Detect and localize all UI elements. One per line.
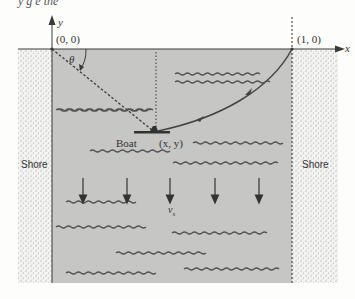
left-shore-label: Shore [21,160,48,170]
right-shore-label: Shore [302,160,329,170]
river-water [52,49,292,283]
river-boat-diagram: y g e the [0,0,355,299]
boat [134,131,170,134]
current-velocity-label: vs [168,205,175,218]
y-axis-label: y [58,17,63,28]
x-axis-arrow-icon [335,46,345,53]
boat-position-label: (x, y) [159,138,183,149]
theta-label: θ [69,54,74,65]
origin-label: (0, 0) [56,34,80,45]
boat-label: Boat [116,138,137,149]
far-bank-point-label: (1, 0) [297,34,321,45]
y-axis-arrow-icon [49,15,56,25]
x-axis-label: x [345,43,350,54]
